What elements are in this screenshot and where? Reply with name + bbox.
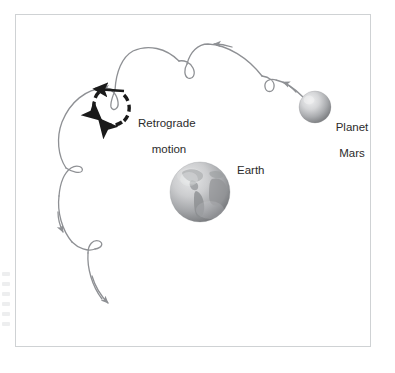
retrograde-dashed-arc xyxy=(94,92,100,119)
label-retrograde-motion: Retrograde motion xyxy=(138,104,200,169)
path-segment-3 xyxy=(115,48,179,90)
label-retrograde-line1: Retrograde xyxy=(138,117,200,130)
path-loop-1 xyxy=(262,76,276,92)
label-retrograde-line2: motion xyxy=(138,143,200,156)
bleed-mark xyxy=(2,322,10,326)
bleed-mark xyxy=(2,292,10,296)
retrograde-direction-arrow xyxy=(95,89,124,91)
retrograde-dashed-arc-upper xyxy=(124,95,129,121)
bleed-mark xyxy=(2,272,10,276)
figure-root: Retrograde motion Planet Mars Earth xyxy=(0,0,395,373)
label-mars-line1: Planet xyxy=(330,121,374,134)
path-arrowhead-1 xyxy=(283,82,296,92)
margin-bleed-marks xyxy=(2,272,10,348)
earth-sphere xyxy=(170,162,230,222)
path-segment-2 xyxy=(187,44,262,76)
path-segment-4 xyxy=(59,88,104,168)
retrograde-motion-diagram xyxy=(0,0,395,373)
label-planet-mars: Planet Mars xyxy=(330,108,374,173)
path-loop-5 xyxy=(88,241,102,253)
mars-sphere xyxy=(299,91,331,123)
path-loop-4 xyxy=(59,166,82,196)
path-arrowhead-final xyxy=(92,276,108,303)
path-segment-5 xyxy=(59,196,72,242)
path-segment-1 xyxy=(276,80,303,97)
retrograde-dashed-arc-lower xyxy=(100,120,122,125)
path-arrowhead-5 xyxy=(58,212,63,232)
label-earth: Earth xyxy=(237,164,285,177)
bleed-mark xyxy=(2,282,10,286)
bleed-mark xyxy=(2,312,10,316)
label-mars-line2: Mars xyxy=(330,147,374,160)
bleed-mark xyxy=(2,302,10,306)
